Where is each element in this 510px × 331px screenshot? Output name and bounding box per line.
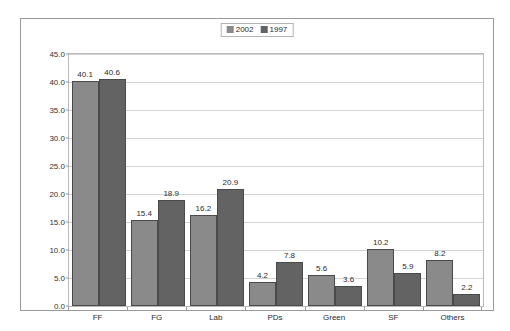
bar-value-label: 3.6 [343,275,354,284]
category-axis: FFFGLabPDsGreenSFOthers [68,309,484,329]
bar-green-1997[interactable] [335,286,362,306]
y-axis-tick-label: 25.0 [49,162,65,171]
bar-pds-1997[interactable] [276,262,303,306]
bar-value-label: 40.6 [104,68,120,77]
bar-others-2002[interactable] [426,260,453,306]
y-axis-tick-label: 5.0 [54,274,65,283]
x-axis-label-ff: FF [93,313,103,322]
plot-area: 0.05.010.015.020.025.030.035.040.045.0 4… [68,53,484,307]
bar-fg-2002[interactable] [131,220,158,306]
legend-entry-2002: 2002 [227,25,254,34]
y-axis-tick-label: 35.0 [49,106,65,115]
bar-lab-2002[interactable] [190,215,217,306]
bar-value-label: 5.9 [402,262,413,271]
bar-ff-1997[interactable] [99,79,126,306]
x-axis-tick-mark [364,307,365,310]
bar-group: 16.220.9 [190,54,244,306]
y-axis-tick-label: 0.0 [54,302,65,311]
x-axis-tick-mark [245,307,246,310]
x-axis-label-pds: PDs [267,313,282,322]
y-axis-tick-label: 10.0 [49,246,65,255]
legend-swatch-1997 [261,26,268,33]
bar-value-label: 40.1 [77,70,93,79]
bar-group: 5.63.6 [308,54,362,306]
x-axis-tick-mark [127,307,128,310]
legend-swatch-2002 [227,26,234,33]
bar-value-label: 7.8 [284,251,295,260]
bar-group: 8.22.2 [426,54,480,306]
x-axis-tick-mark [305,307,306,310]
bar-group: 40.140.6 [72,54,126,306]
bar-value-label: 16.2 [196,204,212,213]
x-axis-tick-mark [481,307,482,310]
bar-value-label: 8.2 [434,249,445,258]
legend-entry-1997: 1997 [261,25,288,34]
bar-green-2002[interactable] [308,275,335,306]
x-axis-label-lab: Lab [209,313,222,322]
bar-sf-1997[interactable] [394,273,421,306]
legend-label-1997: 1997 [270,25,288,34]
legend-label-2002: 2002 [236,25,254,34]
x-axis-tick-mark [186,307,187,310]
x-axis-label-fg: FG [151,313,162,322]
y-axis-tick-label: 30.0 [49,134,65,143]
bar-value-label: 2.2 [461,283,472,292]
chart-frame: 2002 1997 0.05.010.015.020.025.030.035.0… [20,18,494,311]
x-axis-label-sf: SF [388,313,398,322]
x-axis-tick-mark [68,307,69,310]
y-axis-tick-label: 20.0 [49,190,65,199]
bar-group: 10.25.9 [367,54,421,306]
y-axis-tick-label: 15.0 [49,218,65,227]
bar-value-label: 20.9 [223,178,239,187]
bar-value-label: 18.9 [163,189,179,198]
bar-group: 4.27.8 [249,54,303,306]
bar-value-label: 4.2 [257,271,268,280]
bar-others-1997[interactable] [453,294,480,306]
x-axis-label-green: Green [323,313,345,322]
bars-layer: 40.140.615.418.916.220.94.27.85.63.610.2… [69,54,483,306]
y-axis-tick-label: 40.0 [49,78,65,87]
bar-group: 15.418.9 [131,54,185,306]
x-axis-label-others: Others [440,313,464,322]
bar-value-label: 5.6 [316,264,327,273]
y-axis-tick-label: 45.0 [49,50,65,59]
bar-fg-1997[interactable] [158,200,185,306]
bar-lab-1997[interactable] [217,189,244,306]
x-axis-tick-mark [423,307,424,310]
bar-ff-2002[interactable] [72,81,99,306]
bar-sf-2002[interactable] [367,249,394,306]
bar-value-label: 10.2 [373,238,389,247]
bar-pds-2002[interactable] [249,282,276,306]
bar-value-label: 15.4 [136,209,152,218]
chart-legend: 2002 1997 [221,23,294,37]
